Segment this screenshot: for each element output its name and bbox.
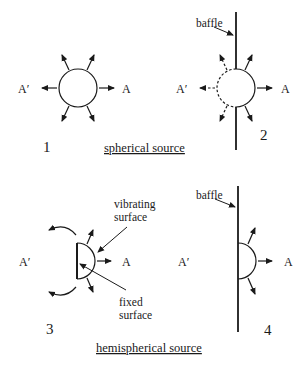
blocked-arrows-2 <box>200 55 227 121</box>
vibrating-surface-4 <box>238 243 256 279</box>
fixed-label-2: surface <box>119 309 152 321</box>
sphere-1 <box>59 69 97 107</box>
label-a-1: A <box>122 82 131 96</box>
panel-number-4: 4 <box>264 322 272 338</box>
label-a-3: A <box>122 255 131 269</box>
fixed-pointer-3 <box>80 264 126 290</box>
panel-4-baffled-hemisphere: baffle A′ A 4 <box>178 186 293 338</box>
acoustic-source-diagram: A′ A 1 baffle A′ A 2 spherical source <box>0 0 305 368</box>
label-a-2: A <box>281 82 290 96</box>
caption-hemispherical-source: hemispherical source <box>96 341 202 355</box>
vibrating-pointer-3 <box>98 227 127 252</box>
radiation-arrows-2 <box>245 55 272 121</box>
vibrating-label: vibrating <box>114 198 156 211</box>
label-a-prime-2: A′ <box>176 82 188 96</box>
label-a-prime-4: A′ <box>178 255 190 269</box>
radiation-arrows-1 <box>42 55 114 121</box>
sphere-2-front <box>236 69 255 107</box>
vibrating-surface-3 <box>77 243 95 279</box>
label-a-prime-3: A′ <box>19 255 31 269</box>
panel-number-2: 2 <box>260 127 268 143</box>
radiation-arrows-3 <box>49 227 111 295</box>
baffle-label-2: baffle <box>196 17 223 29</box>
label-a-prime-1: A′ <box>18 82 30 96</box>
baffle-label-4: baffle <box>196 189 223 201</box>
panel-number-1: 1 <box>43 139 51 155</box>
radiation-arrows-4 <box>248 228 272 294</box>
panel-1-spherical-source: A′ A 1 <box>18 55 131 155</box>
panel-number-3: 3 <box>46 321 54 337</box>
caption-spherical-source: spherical source <box>104 141 185 155</box>
panel-3-hemisphere: vibrating surface fixed surface A′ A 3 <box>19 198 156 337</box>
sphere-2-back-dashed <box>217 69 236 107</box>
vibrating-label-2: surface <box>114 211 147 223</box>
label-a-4: A <box>284 255 293 269</box>
panel-2-baffled-sphere: baffle A′ A 2 <box>176 12 290 150</box>
fixed-label: fixed <box>119 296 143 308</box>
